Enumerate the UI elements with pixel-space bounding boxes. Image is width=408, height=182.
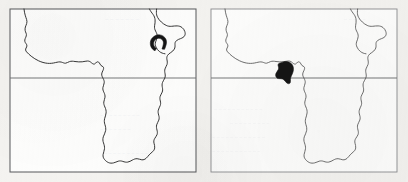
figure-two-panel-africa-distribution-maps: ------- --------- ------- ---------- ---… — [0, 0, 408, 182]
svg-text:-----------: ----------- — [214, 103, 264, 114]
map-panel-left: ------- --------- ------- ---------- — [0, 0, 204, 182]
svg-text:------------: ------------ — [212, 131, 266, 142]
svg-text:----------: ---------- — [104, 147, 149, 158]
svg-text:-------: ------- — [105, 12, 140, 24]
map-panel-right: ----- ----------- --------- ------------… — [204, 0, 408, 182]
svg-text:-----------: ----------- — [212, 145, 262, 156]
svg-text:---------: --------- — [230, 117, 271, 128]
